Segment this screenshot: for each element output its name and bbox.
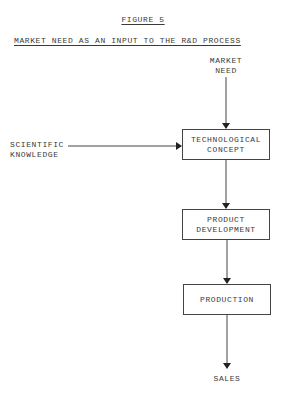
figure-title: MARKET NEED AS AN INPUT TO THE R&D PROCE…: [14, 36, 241, 46]
scientific-knowledge-label: SCIENTIFIC KNOWLEDGE: [10, 140, 64, 160]
production-box: PRODUCTION: [183, 284, 271, 315]
box-line2: CONCEPT: [191, 145, 261, 155]
scientific-line1: SCIENTIFIC: [10, 140, 64, 150]
sales-label: SALES: [197, 374, 257, 384]
technological-concept-box: TECHNOLOGICAL CONCEPT: [182, 129, 270, 160]
scientific-line2: KNOWLEDGE: [10, 150, 64, 160]
product-development-box: PRODUCT DEVELOPMENT: [182, 209, 270, 240]
market-need-label: MARKET NEED: [196, 56, 256, 76]
box-line1: PRODUCTION: [200, 295, 254, 305]
market-need-line2: NEED: [196, 66, 256, 76]
box-line1: TECHNOLOGICAL: [191, 135, 261, 145]
box-line2: DEVELOPMENT: [196, 225, 255, 235]
market-need-line1: MARKET: [196, 56, 256, 66]
box-line1: PRODUCT: [196, 215, 255, 225]
figure-label: FIGURE 5: [0, 15, 286, 25]
